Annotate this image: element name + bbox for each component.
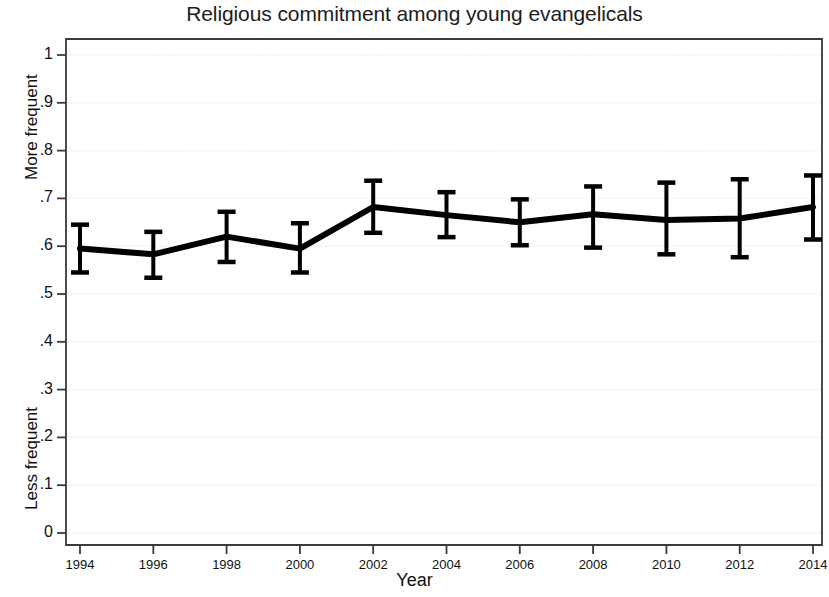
plot-frame bbox=[66, 39, 822, 545]
y-axis-ticks bbox=[57, 55, 66, 533]
x-axis-ticks bbox=[80, 545, 813, 554]
axis-frame bbox=[66, 39, 822, 545]
gridlines bbox=[66, 55, 822, 533]
error-bars bbox=[71, 175, 822, 277]
chart-figure: Religious commitment among young evangel… bbox=[0, 0, 829, 597]
plot-area bbox=[0, 0, 829, 597]
